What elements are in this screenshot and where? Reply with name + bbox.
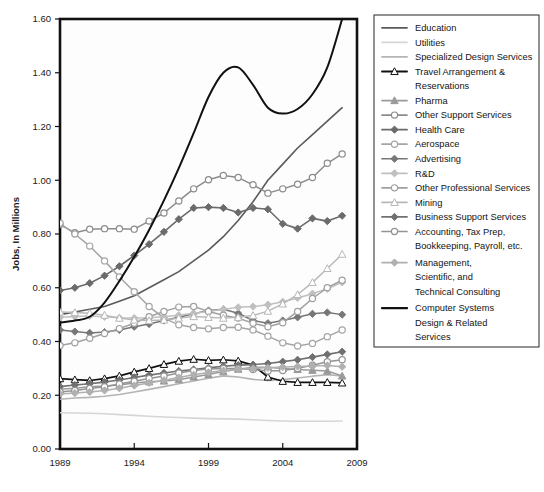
data-point-marker — [205, 326, 211, 332]
legend-label-continuation: Reservations — [415, 81, 470, 91]
data-point-marker — [324, 160, 330, 166]
y-axis-tick-label: 0.20 — [33, 390, 52, 401]
data-point-marker — [309, 340, 315, 346]
legend-label: Specialized Design Services — [415, 52, 533, 62]
data-point-marker — [176, 198, 182, 204]
legend-label: Design & Related — [415, 318, 487, 328]
data-point-marker — [280, 320, 286, 326]
legend-label: Computer Systems — [415, 303, 494, 313]
data-point-marker — [146, 303, 152, 309]
x-axis-tick-label: 2004 — [272, 457, 293, 468]
legend-item[interactable]: Health Care — [382, 125, 465, 135]
legend-label: Utilities — [415, 38, 445, 48]
data-point-marker — [57, 342, 63, 348]
data-point-marker — [391, 228, 397, 234]
legend-label: Other Professional Services — [415, 183, 531, 193]
legend-label: Management, — [415, 258, 472, 268]
data-point-marker — [161, 210, 167, 216]
data-point-marker — [339, 151, 345, 157]
data-point-marker — [87, 226, 93, 232]
jobs-in-millions-line-chart: 0.000.200.400.600.801.001.201.401.601989… — [0, 0, 544, 492]
legend-label: Bookkeeping, Payroll, etc. — [415, 241, 523, 251]
legend-label: Reservations — [415, 81, 470, 91]
y-axis-tick-label: 1.40 — [33, 67, 52, 78]
legend-label: Accounting, Tax Prep, — [415, 227, 505, 237]
y-axis-tick-label: 1.00 — [33, 175, 52, 186]
data-point-marker — [205, 177, 211, 183]
data-point-marker — [101, 226, 107, 232]
data-point-marker — [265, 190, 271, 196]
data-point-marker — [87, 335, 93, 341]
y-axis-tick-label: 1.20 — [33, 121, 52, 132]
data-point-marker — [87, 243, 93, 249]
data-point-marker — [391, 185, 397, 191]
data-point-marker — [309, 295, 315, 301]
legend-label: Education — [415, 23, 456, 33]
data-point-marker — [391, 112, 397, 118]
data-point-marker — [131, 226, 137, 232]
data-point-marker — [72, 231, 78, 237]
x-axis-tick-label: 1989 — [49, 457, 70, 468]
data-point-marker — [295, 343, 301, 349]
data-point-marker — [235, 174, 241, 180]
y-axis-tick-label: 0.40 — [33, 336, 52, 347]
data-point-marker — [220, 172, 226, 178]
legend-label: Advertising — [415, 154, 461, 164]
data-point-marker — [146, 218, 152, 224]
data-point-marker — [191, 303, 197, 309]
legend-label-continuation: Technical Consulting — [415, 287, 500, 297]
legend-label-continuation: Bookkeeping, Payroll, etc. — [415, 241, 523, 251]
data-point-marker — [72, 340, 78, 346]
data-point-marker — [250, 320, 256, 326]
data-point-marker — [131, 289, 137, 295]
legend-label: Scientific, and — [415, 272, 473, 282]
data-point-marker — [339, 327, 345, 333]
x-axis-tick-label: 2009 — [346, 457, 367, 468]
data-point-marker — [220, 324, 226, 330]
data-point-marker — [101, 330, 107, 336]
legend-label: Health Care — [415, 125, 465, 135]
data-point-marker — [324, 285, 330, 291]
data-point-marker — [176, 304, 182, 310]
data-point-marker — [295, 181, 301, 187]
data-point-marker — [250, 327, 256, 333]
y-axis-tick-label: 0.80 — [33, 228, 52, 239]
data-point-marker — [324, 334, 330, 340]
legend-label: Aerospace — [415, 139, 459, 149]
legend-label: Pharma — [415, 96, 448, 106]
data-point-marker — [295, 308, 301, 314]
y-axis-title: Jobs, In Millions — [10, 197, 21, 271]
data-point-marker — [250, 182, 256, 188]
legend-label-continuation: Design & Related — [415, 318, 487, 328]
data-point-marker — [309, 174, 315, 180]
data-point-marker — [191, 324, 197, 330]
y-axis-tick-label: 1.60 — [33, 13, 52, 24]
y-axis-tick-label: 0.60 — [33, 282, 52, 293]
legend-label: Other Support Services — [415, 110, 512, 120]
data-point-marker — [161, 308, 167, 314]
legend-label-continuation: Scientific, and — [415, 272, 473, 282]
data-point-marker — [101, 258, 107, 264]
x-axis-tick-label: 1999 — [198, 457, 219, 468]
legend-label: Business Support Services — [415, 212, 526, 222]
legend-label: Technical Consulting — [415, 287, 500, 297]
legend-label: R&D — [415, 169, 435, 179]
data-point-marker — [57, 220, 63, 226]
legend-label-continuation: Services — [415, 332, 451, 342]
data-point-marker — [235, 324, 241, 330]
x-axis-tick-label: 1994 — [124, 457, 145, 468]
data-point-marker — [191, 186, 197, 192]
data-point-marker — [265, 333, 271, 339]
y-axis-tick-label: 0.00 — [33, 443, 52, 454]
legend-label: Services — [415, 332, 451, 342]
legend-label: Mining — [415, 198, 442, 208]
data-point-marker — [176, 322, 182, 328]
data-point-marker — [339, 277, 345, 283]
legend-label: Travel Arrangement & — [415, 67, 506, 77]
chart-page: 0.000.200.400.600.801.001.201.401.601989… — [0, 0, 544, 492]
data-point-marker — [265, 324, 271, 330]
data-point-marker — [339, 357, 345, 363]
data-point-marker — [116, 326, 122, 332]
data-point-marker — [116, 226, 122, 232]
data-point-marker — [391, 141, 397, 147]
